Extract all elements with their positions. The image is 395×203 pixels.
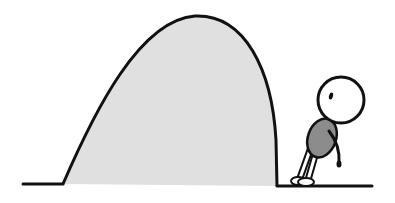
cartoon-svg [0, 0, 395, 203]
figure-foot-front [298, 178, 314, 186]
figure-head [318, 77, 364, 123]
figure [291, 77, 364, 186]
mound [63, 16, 277, 186]
figure-hand [337, 161, 342, 168]
illustration-scene [0, 0, 395, 203]
